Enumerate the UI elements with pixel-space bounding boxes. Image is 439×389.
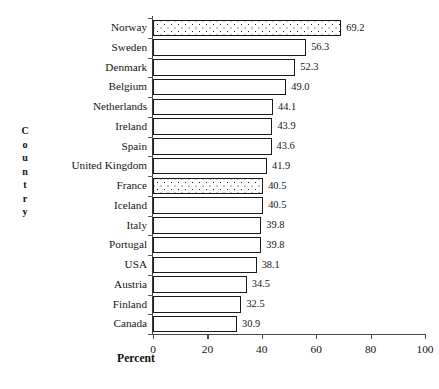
y-axis-title-letter-2: u [14,151,36,165]
category-label: Sweden [112,38,147,58]
bar-value-label: 39.8 [266,217,284,233]
y-axis-title-letter-1: o [14,138,36,152]
bar[interactable] [153,118,272,134]
bar[interactable] [153,99,273,115]
bar-value-label: 39.8 [266,237,284,253]
bar[interactable] [153,39,306,55]
bar-value-label: 40.5 [268,197,286,213]
category-label: Portugal [109,235,147,255]
bar-value-label: 41.9 [272,158,290,174]
bar-value-label: 44.1 [278,99,296,115]
category-label: Spain [122,137,147,157]
category-label: Iceland [114,196,147,216]
bar-chart: Country NorwaySwedenDenmarkBelgiumNether… [0,0,439,389]
y-axis-title-letter-3: n [14,165,36,179]
bar-value-label: 69.2 [346,20,364,36]
category-label: Netherlands [93,97,147,117]
x-axis-tick [371,334,372,339]
category-label: Ireland [115,117,147,137]
category-axis-labels: NorwaySwedenDenmarkBelgiumNetherlandsIre… [40,18,150,334]
x-axis-tick-label: 100 [405,343,439,355]
bar[interactable] [153,197,263,213]
x-axis-line [152,334,425,335]
y-axis-title-letter-6: y [14,205,36,219]
bar-value-label: 32.5 [246,296,264,312]
category-label: Austria [114,275,147,295]
y-axis-title-letter-0: C [14,124,36,138]
x-axis-tick [425,334,426,339]
bar-value-label: 43.9 [277,118,295,134]
bar-value-label: 34.5 [252,276,270,292]
bar-value-label: 43.6 [277,138,295,154]
bar[interactable] [153,276,247,292]
category-label: Canada [113,314,147,334]
category-label: USA [125,255,147,275]
category-label: Belgium [108,77,147,97]
bar[interactable] [153,138,272,154]
x-axis-tick [262,334,263,339]
bar-value-label: 38.1 [262,257,280,273]
category-label: Norway [111,18,147,38]
bar[interactable] [153,316,237,332]
category-label: Finland [113,295,147,315]
x-axis-title: Percent [0,352,272,365]
plot-area: 69.256.352.349.044.143.943.641.940.540.5… [153,18,425,334]
bar[interactable] [153,20,341,36]
bar[interactable] [153,59,295,75]
category-label: Italy [126,216,147,236]
y-axis-title-letter-5: r [14,192,36,206]
bar[interactable] [153,158,267,174]
x-axis-tick [316,334,317,339]
category-label: Denmark [105,58,147,78]
bar[interactable] [153,217,261,233]
bar-value-label: 40.5 [268,178,286,194]
x-axis-tick [207,334,208,339]
bar[interactable] [153,178,263,194]
bar-value-label: 30.9 [242,316,260,332]
x-axis-tick-label: 60 [296,343,336,355]
bar[interactable] [153,79,286,95]
y-axis-title-letter-4: t [14,178,36,192]
bar-value-label: 49.0 [291,79,309,95]
bar[interactable] [153,237,261,253]
bar[interactable] [153,257,257,273]
bar[interactable] [153,296,241,312]
x-axis-tick [153,334,154,339]
bar-value-label: 52.3 [300,59,318,75]
bar-value-label: 56.3 [311,39,329,55]
category-label: France [117,176,147,196]
category-label: United Kingdom [71,156,147,176]
x-axis-tick-label: 80 [351,343,391,355]
y-axis-title: Country [14,124,36,219]
